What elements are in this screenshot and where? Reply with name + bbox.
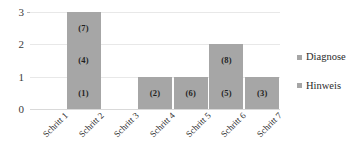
bar-segment[interactable]: (8): [209, 44, 243, 76]
bar-segment-label: (5): [221, 89, 232, 98]
x-axis-slot: Schritt 3: [101, 109, 137, 155]
legend-swatch-icon: [297, 83, 302, 88]
y-axis-tick-label: 3: [19, 7, 25, 18]
bar-segment[interactable]: (6): [174, 77, 208, 109]
bar[interactable]: (3): [245, 77, 279, 109]
bar-segment[interactable]: (7): [67, 12, 101, 44]
bar-segment[interactable]: (4): [67, 44, 101, 76]
chart-figure: 0123 (1)(4)(7)(2)(6)(5)(8)(3) Schritt 1S…: [0, 0, 363, 155]
y-axis-tick-label: 2: [19, 39, 25, 50]
legend-label: Hinweis: [306, 81, 341, 92]
x-axis-slot: Schritt 4: [137, 109, 173, 155]
bar-slot: (6): [173, 12, 209, 109]
bar-slot: (2): [137, 12, 173, 109]
legend-item[interactable]: Hinweis: [297, 81, 346, 92]
bar-segment-label: (2): [150, 89, 161, 98]
x-axis-slot: Schritt 1: [30, 109, 66, 155]
bar-segment-label: (4): [78, 56, 89, 65]
x-axis-slot: Schritt 7: [244, 109, 280, 155]
bar-slot: (3): [244, 12, 280, 109]
bar-segment[interactable]: (5): [209, 77, 243, 109]
legend-label: Diagnose: [306, 52, 346, 63]
x-axis-labels: Schritt 1Schritt 2Schritt 3Schritt 4Schr…: [30, 109, 280, 155]
legend-item[interactable]: Diagnose: [297, 52, 346, 63]
bar-segment[interactable]: (2): [138, 77, 172, 109]
bar-segment-label: (8): [221, 56, 232, 65]
bar[interactable]: (1)(4)(7): [67, 12, 101, 109]
bar[interactable]: (2): [138, 77, 172, 109]
chart-legend: DiagnoseHinweis: [297, 52, 346, 91]
bar-slot: (5)(8): [209, 12, 245, 109]
bar-slot: (1)(4)(7): [66, 12, 102, 109]
bar-slot: [30, 12, 66, 109]
y-axis-tick-label: 0: [19, 104, 25, 115]
bar[interactable]: (6): [174, 77, 208, 109]
legend-swatch-icon: [297, 55, 302, 60]
plot-area: 0123 (1)(4)(7)(2)(6)(5)(8)(3): [30, 12, 280, 109]
bar[interactable]: (5)(8): [209, 44, 243, 109]
bar-segment-label: (6): [185, 89, 196, 98]
bar-series: (1)(4)(7)(2)(6)(5)(8)(3): [30, 12, 280, 109]
bar-segment-label: (7): [78, 24, 89, 33]
bar-segment-label: (3): [257, 89, 268, 98]
y-axis-tick-label: 1: [19, 71, 25, 82]
x-axis-slot: Schritt 2: [66, 109, 102, 155]
bar-segment[interactable]: (1): [67, 77, 101, 109]
bar-slot: [101, 12, 137, 109]
bar-segment-label: (1): [78, 89, 89, 98]
x-axis-slot: Schritt 5: [173, 109, 209, 155]
bar-segment[interactable]: (3): [245, 77, 279, 109]
x-axis-tick-label: Schritt 7: [256, 111, 284, 139]
x-axis-slot: Schritt 6: [209, 109, 245, 155]
